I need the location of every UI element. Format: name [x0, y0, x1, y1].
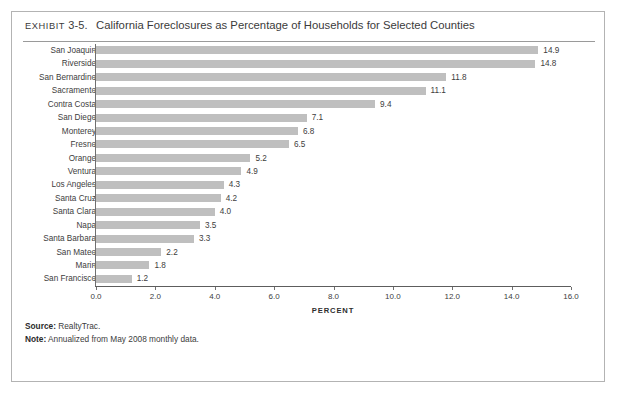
bar — [96, 235, 194, 243]
value-axis-tick — [393, 287, 394, 290]
bar — [96, 60, 535, 68]
bar — [96, 87, 426, 95]
chart-plot-area: San Joaquin14.9Riverside14.8San Bernardi… — [12, 44, 606, 314]
bar-value-label: 7.1 — [312, 111, 323, 124]
bar-value-label: 3.5 — [205, 219, 216, 232]
value-axis-tick-label: 6.0 — [254, 292, 294, 301]
value-axis-tick — [512, 287, 513, 290]
value-axis-tick-label: 16.0 — [551, 292, 591, 301]
bar — [96, 275, 132, 283]
category-label: Riverside — [0, 57, 96, 70]
bar-row: San Mateo2.2 — [12, 246, 606, 259]
bar-value-label: 14.8 — [540, 57, 556, 70]
value-axis-tick — [334, 287, 335, 290]
category-label: San Francisco — [0, 272, 96, 285]
bar-value-label: 4.2 — [226, 192, 237, 205]
category-label: Los Angeles — [0, 178, 96, 191]
value-axis-tick — [155, 287, 156, 290]
category-label: Santa Clara — [0, 205, 96, 218]
source-line: Source: RealtyTrac. — [25, 320, 199, 333]
source-label: Source: — [25, 321, 56, 331]
bar-row: Riverside14.8 — [12, 57, 606, 70]
note-label: Note: — [25, 334, 46, 344]
bar — [96, 140, 289, 148]
value-axis-tick-label: 10.0 — [373, 292, 413, 301]
exhibit-footer: Source: RealtyTrac. Note: Annualized fro… — [25, 320, 199, 345]
bar-value-label: 11.8 — [451, 71, 466, 84]
bar-value-label: 4.0 — [220, 205, 231, 218]
bar-value-label: 1.8 — [154, 259, 165, 272]
bar-value-label: 4.9 — [246, 165, 257, 178]
bar — [96, 114, 307, 122]
bar-value-label: 4.3 — [229, 178, 240, 191]
bar-row: Sacramento11.1 — [12, 84, 606, 97]
bar-row: Contra Costa9.4 — [12, 98, 606, 111]
value-axis-tick-label: 12.0 — [432, 292, 472, 301]
category-label: San Bernardino — [0, 71, 96, 84]
value-axis-tick-label: 4.0 — [195, 292, 235, 301]
title-divider — [23, 41, 595, 42]
bar-value-label: 11.1 — [431, 84, 446, 97]
category-label: San Joaquin — [0, 44, 96, 57]
category-label: Marin — [0, 259, 96, 272]
value-axis-tick-label: 8.0 — [314, 292, 354, 301]
exhibit-title-text: California Foreclosures as Percentage of… — [96, 19, 475, 31]
bar-row: Santa Clara4.0 — [12, 205, 606, 218]
bar — [96, 181, 224, 189]
category-label: Fresno — [0, 138, 96, 151]
bar — [96, 46, 538, 54]
category-axis-line — [95, 44, 96, 286]
bar — [96, 167, 241, 175]
bar-row: Marin1.8 — [12, 259, 606, 272]
category-label: Orange — [0, 152, 96, 165]
value-axis-tick — [274, 287, 275, 290]
source-value: RealtyTrac. — [58, 321, 100, 331]
exhibit-label: EXHIBIT — [25, 21, 65, 31]
category-label: San Diego — [0, 111, 96, 124]
bar-value-label: 14.9 — [543, 44, 559, 57]
bar-value-label: 1.2 — [137, 272, 148, 285]
bar-row: Los Angeles4.3 — [12, 178, 606, 191]
bar-value-label: 9.4 — [380, 98, 391, 111]
page-title: EXHIBIT 3-5. California Foreclosures as … — [25, 19, 475, 31]
bar-row: San Diego7.1 — [12, 111, 606, 124]
bar — [96, 127, 298, 135]
bar-row: San Joaquin14.9 — [12, 44, 606, 57]
bar-value-label: 6.8 — [303, 125, 314, 138]
bar-row: Santa Barbara3.3 — [12, 232, 606, 245]
bar-row: Orange5.2 — [12, 152, 606, 165]
bar-series: San Joaquin14.9Riverside14.8San Bernardi… — [12, 44, 606, 286]
category-label: Monterey — [0, 125, 96, 138]
bar-value-label: 3.3 — [199, 232, 210, 245]
category-label: San Mateo — [0, 246, 96, 259]
bar — [96, 194, 221, 202]
bar-row: Ventura4.9 — [12, 165, 606, 178]
value-axis-title: PERCENT — [95, 306, 571, 315]
value-axis-tick — [452, 287, 453, 290]
note-value: Annualized from May 2008 monthly data. — [48, 334, 199, 344]
bar — [96, 73, 446, 81]
note-line: Note: Annualized from May 2008 monthly d… — [25, 333, 199, 346]
exhibit-number: 3-5. — [68, 19, 88, 31]
bar-row: Fresno6.5 — [12, 138, 606, 151]
value-axis-tick-label: 14.0 — [492, 292, 532, 301]
bar-row: Monterey6.8 — [12, 125, 606, 138]
bar — [96, 261, 149, 269]
bar — [96, 248, 161, 256]
value-axis-tick-label: 0.0 — [76, 292, 116, 301]
bar-value-label: 5.2 — [255, 152, 266, 165]
bar-value-label: 2.2 — [166, 246, 177, 259]
value-axis-tick — [96, 287, 97, 290]
bar — [96, 100, 375, 108]
category-label: Napa — [0, 219, 96, 232]
bar-row: Santa Cruz4.2 — [12, 192, 606, 205]
value-axis-tick — [215, 287, 216, 290]
category-label: Santa Cruz — [0, 192, 96, 205]
bar — [96, 221, 200, 229]
category-label: Contra Costa — [0, 98, 96, 111]
category-label: Sacramento — [0, 84, 96, 97]
exhibit-header: EXHIBIT 3-5. California Foreclosures as … — [12, 12, 604, 41]
bar-row: Napa3.5 — [12, 219, 606, 232]
value-axis-tick-label: 2.0 — [135, 292, 175, 301]
bar-value-label: 6.5 — [294, 138, 305, 151]
